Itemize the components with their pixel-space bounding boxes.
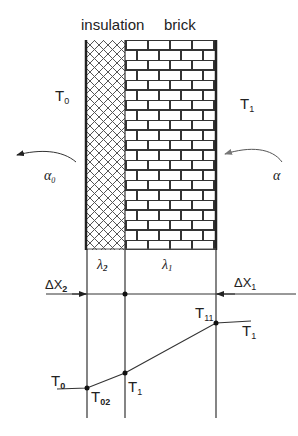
insulation-layer (87, 40, 125, 250)
brick-conductivity: λ1 (161, 257, 173, 273)
left-ambient-temp: T0 (55, 87, 69, 106)
right-ambient-temp: T1 (240, 95, 254, 114)
insulation-label: insulation (81, 16, 144, 33)
left-convection-coefficient: α0 (44, 168, 55, 185)
interface-dimension-point (123, 292, 128, 297)
left-convection-arrow-icon (17, 151, 76, 162)
profile-right-ambient-label: T1 (242, 322, 256, 341)
insulation-thickness: ΔX2 (45, 277, 67, 294)
wall-diagram: insulation brick T0 T1 α0 α λ2 λ1 ΔX2 ΔX… (0, 0, 298, 436)
profile-interface-label: T1 (128, 378, 142, 397)
brick-thickness: ΔX1 (234, 275, 256, 292)
right-convection-arrow-icon (225, 149, 282, 162)
temperature-profile-line (57, 321, 251, 389)
profile-outer-surface-label: T02 (91, 388, 110, 407)
outer-surface-point (85, 386, 90, 391)
brick-label: brick (164, 16, 196, 33)
right-convection-coefficient: α (273, 168, 281, 183)
profile-inner-surface-label: T11 (195, 304, 214, 323)
insulation-conductivity: λ2 (96, 257, 108, 273)
inner-surface-point (214, 321, 219, 326)
brick-layer (125, 40, 216, 250)
interface-point (123, 371, 128, 376)
profile-left-ambient-label: T0 (51, 372, 65, 391)
